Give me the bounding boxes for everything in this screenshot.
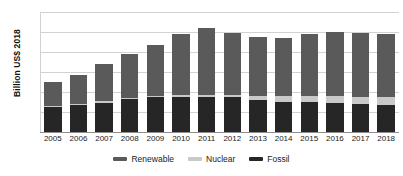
x-tick-label-2015: 2015 bbox=[296, 134, 322, 143]
bar-segment-renewable[interactable] bbox=[377, 34, 394, 97]
bars-layer bbox=[40, 12, 399, 132]
bar-segment-nuclear[interactable] bbox=[121, 98, 138, 99]
bar-group[interactable] bbox=[44, 12, 61, 132]
x-tick-label-2009: 2009 bbox=[143, 134, 169, 143]
bar-segment-nuclear[interactable] bbox=[275, 96, 292, 102]
bar-group[interactable] bbox=[301, 12, 318, 132]
bar-segment-fossil[interactable] bbox=[249, 100, 266, 132]
bar-group[interactable] bbox=[172, 12, 189, 132]
x-tick-label-2017: 2017 bbox=[348, 134, 374, 143]
bar-group[interactable] bbox=[224, 12, 241, 132]
bar-segment-nuclear[interactable] bbox=[70, 104, 87, 105]
bar-segment-fossil[interactable] bbox=[147, 97, 164, 132]
bar-segment-fossil[interactable] bbox=[352, 104, 369, 132]
bar-segment-nuclear[interactable] bbox=[326, 96, 343, 103]
bar-group[interactable] bbox=[275, 12, 292, 132]
legend-item-fossil[interactable]: Fossil bbox=[249, 154, 289, 164]
x-tick-label-2007: 2007 bbox=[91, 134, 117, 143]
bar-group[interactable] bbox=[377, 12, 394, 132]
bar-segment-fossil[interactable] bbox=[326, 103, 343, 132]
bar-segment-renewable[interactable] bbox=[172, 34, 189, 95]
plot-area: 0100200300400500600 bbox=[40, 12, 399, 132]
x-tick-label-2010: 2010 bbox=[168, 134, 194, 143]
bar-group[interactable] bbox=[121, 12, 138, 132]
legend-swatch-renewable bbox=[113, 157, 127, 161]
legend-item-nuclear[interactable]: Nuclear bbox=[188, 154, 235, 164]
bar-segment-nuclear[interactable] bbox=[224, 95, 241, 97]
bar-segment-renewable[interactable] bbox=[326, 32, 343, 96]
bar-group[interactable] bbox=[326, 12, 343, 132]
legend-label-fossil: Fossil bbox=[267, 154, 289, 164]
bar-segment-nuclear[interactable] bbox=[377, 97, 394, 105]
x-tick-label-2018: 2018 bbox=[373, 134, 399, 143]
bar-group[interactable] bbox=[198, 12, 215, 132]
bar-group[interactable] bbox=[249, 12, 266, 132]
bar-group[interactable] bbox=[352, 12, 369, 132]
bar-segment-renewable[interactable] bbox=[224, 33, 241, 96]
bar-group[interactable] bbox=[147, 12, 164, 132]
bar-segment-fossil[interactable] bbox=[275, 102, 292, 132]
bar-segment-renewable[interactable] bbox=[249, 37, 266, 96]
bar-segment-fossil[interactable] bbox=[95, 103, 112, 132]
x-tick-label-2006: 2006 bbox=[66, 134, 92, 143]
legend-item-renewable[interactable]: Renewable bbox=[113, 154, 174, 164]
x-tick-label-2012: 2012 bbox=[220, 134, 246, 143]
bar-segment-nuclear[interactable] bbox=[352, 97, 369, 105]
bar-segment-fossil[interactable] bbox=[377, 105, 394, 132]
y-axis-title: Billion US$ 2018 bbox=[12, 15, 22, 111]
bar-segment-fossil[interactable] bbox=[224, 97, 241, 132]
x-tick-label-2014: 2014 bbox=[271, 134, 297, 143]
x-tick-label-2016: 2016 bbox=[322, 134, 348, 143]
bar-segment-nuclear[interactable] bbox=[301, 96, 318, 102]
bar-segment-fossil[interactable] bbox=[198, 97, 215, 132]
bar-segment-fossil[interactable] bbox=[172, 97, 189, 132]
x-tick-label-2011: 2011 bbox=[194, 134, 220, 143]
gridline-0 bbox=[40, 132, 399, 133]
bar-segment-renewable[interactable] bbox=[70, 75, 87, 104]
x-tick-label-2008: 2008 bbox=[117, 134, 143, 143]
bar-segment-fossil[interactable] bbox=[301, 102, 318, 132]
stacked-bar-chart: Billion US$ 2018 0100200300400500600 200… bbox=[0, 0, 403, 176]
bar-segment-nuclear[interactable] bbox=[44, 106, 61, 107]
bar-segment-renewable[interactable] bbox=[275, 38, 292, 96]
x-tick-label-2005: 2005 bbox=[40, 134, 66, 143]
bar-group[interactable] bbox=[70, 12, 87, 132]
chart-legend: RenewableNuclearFossil bbox=[0, 154, 403, 164]
bar-segment-renewable[interactable] bbox=[95, 64, 112, 101]
bar-segment-nuclear[interactable] bbox=[198, 95, 215, 96]
bar-segment-fossil[interactable] bbox=[70, 105, 87, 132]
bar-segment-renewable[interactable] bbox=[44, 82, 61, 106]
legend-swatch-nuclear bbox=[188, 157, 202, 161]
bar-segment-nuclear[interactable] bbox=[95, 101, 112, 102]
x-axis-ticks: 2005200620072008200920102011201220132014… bbox=[40, 134, 399, 148]
bar-group[interactable] bbox=[95, 12, 112, 132]
bar-segment-nuclear[interactable] bbox=[249, 96, 266, 100]
legend-swatch-fossil bbox=[249, 157, 263, 161]
legend-label-nuclear: Nuclear bbox=[206, 154, 235, 164]
x-tick-label-2013: 2013 bbox=[245, 134, 271, 143]
bar-segment-renewable[interactable] bbox=[121, 54, 138, 98]
bar-segment-nuclear[interactable] bbox=[147, 96, 164, 97]
bar-segment-renewable[interactable] bbox=[198, 28, 215, 95]
bar-segment-renewable[interactable] bbox=[147, 45, 164, 96]
bar-segment-renewable[interactable] bbox=[301, 34, 318, 97]
bar-segment-nuclear[interactable] bbox=[172, 95, 189, 96]
bar-segment-fossil[interactable] bbox=[121, 99, 138, 132]
bar-segment-fossil[interactable] bbox=[44, 107, 61, 132]
bar-segment-renewable[interactable] bbox=[352, 33, 369, 96]
legend-label-renewable: Renewable bbox=[131, 154, 174, 164]
